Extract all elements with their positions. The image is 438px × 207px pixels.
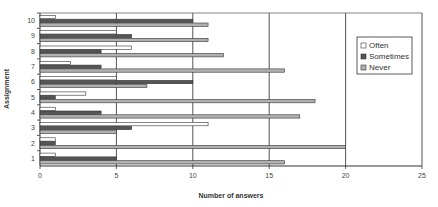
bar-sometimes-3 [40, 126, 132, 129]
y-tick-label: 6 [31, 78, 35, 85]
x-axis-ticks: 0510152025 [38, 166, 426, 179]
bar-never-6 [40, 84, 147, 87]
legend-label-often: Often [369, 41, 389, 50]
legend-swatch-sometimes [361, 54, 366, 59]
bar-often-2 [40, 138, 55, 141]
x-axis-title: Number of answers [199, 192, 264, 199]
bar-often-8 [40, 46, 132, 49]
y-tick-label: 2 [31, 140, 35, 147]
bar-often-10 [40, 15, 55, 18]
legend-label-never: Never [369, 63, 391, 72]
bar-often-3 [40, 123, 208, 126]
bar-never-7 [40, 69, 284, 72]
legend-label-sometimes: Sometimes [369, 52, 409, 61]
bar-often-5 [40, 92, 86, 95]
legend-swatch-often [361, 43, 366, 48]
bar-sometimes-2 [40, 142, 55, 145]
y-tick-label: 7 [31, 63, 35, 70]
y-tick-label: 5 [31, 94, 35, 101]
bar-never-1 [40, 161, 284, 164]
bar-never-8 [40, 54, 223, 57]
bar-often-4 [40, 107, 55, 110]
bar-sometimes-8 [40, 50, 101, 53]
bar-often-9 [40, 31, 116, 34]
x-tick-label: 10 [189, 172, 197, 179]
x-tick-label: 5 [114, 172, 118, 179]
bar-sometimes-10 [40, 19, 193, 22]
bar-sometimes-4 [40, 111, 101, 114]
x-tick-label: 25 [418, 172, 426, 179]
bar-sometimes-7 [40, 65, 101, 68]
y-tick-label: 3 [31, 124, 35, 131]
legend-swatch-never [361, 65, 366, 70]
y-tick-label: 10 [27, 17, 35, 24]
bar-often-1 [40, 153, 55, 156]
bar-never-2 [40, 145, 346, 148]
bar-often-7 [40, 61, 71, 64]
bar-sometimes-1 [40, 157, 116, 160]
bar-chart: 12345678910 0510152025 Number of answers… [0, 0, 438, 207]
bar-never-9 [40, 38, 208, 41]
y-tick-label: 4 [31, 109, 35, 116]
bar-never-4 [40, 115, 300, 118]
bar-sometimes-5 [40, 96, 55, 99]
y-axis-title: Assignment [3, 68, 11, 109]
x-tick-label: 20 [342, 172, 350, 179]
y-tick-label: 9 [31, 32, 35, 39]
bar-never-3 [40, 130, 116, 133]
y-axis-ticks: 12345678910 [27, 13, 40, 162]
bar-sometimes-9 [40, 35, 132, 38]
y-tick-label: 1 [31, 155, 35, 162]
x-tick-label: 0 [38, 172, 42, 179]
y-tick-label: 8 [31, 48, 35, 55]
bar-sometimes-6 [40, 80, 193, 83]
bar-never-10 [40, 23, 208, 26]
x-tick-label: 15 [265, 172, 273, 179]
bar-never-5 [40, 100, 315, 103]
legend: OftenSometimesNever [357, 37, 412, 74]
bar-often-6 [40, 77, 116, 80]
